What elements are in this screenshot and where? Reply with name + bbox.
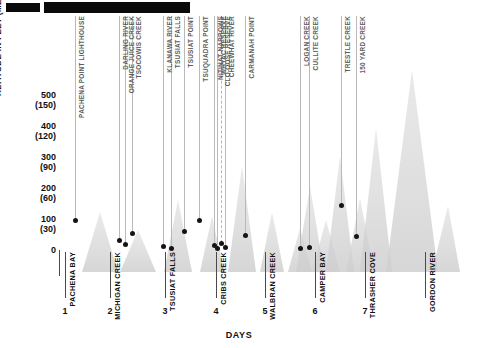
- y-tick-400: 400(120): [4, 121, 56, 141]
- redacted-title-bar-left: [6, 3, 40, 12]
- y-tick-100: 100(30): [4, 214, 56, 234]
- drop-line: [75, 16, 76, 221]
- camp-label: Cribs Creek: [219, 252, 228, 305]
- day-rule: [65, 252, 66, 298]
- top-label: Orange Juice Creek: [128, 16, 135, 93]
- data-point[interactable]: [215, 246, 220, 251]
- camp-label: Gordon River: [428, 252, 437, 312]
- top-label: Cullite Creek: [312, 16, 319, 70]
- drop-line: [214, 16, 215, 246]
- data-point[interactable]: [298, 246, 303, 251]
- day-tick-7: 7: [355, 306, 375, 316]
- y-tick-metres: (60): [4, 193, 56, 203]
- drop-line: [356, 16, 357, 237]
- day-rule: [425, 252, 426, 298]
- data-point[interactable]: [169, 246, 174, 251]
- y-tick-feet: 100: [41, 214, 56, 224]
- day-tick-4: 4: [206, 306, 226, 316]
- x-axis-label: DAYS: [0, 330, 478, 340]
- y-tick-300: 300(90): [4, 152, 56, 172]
- top-label: 150 Yard Creek: [359, 16, 366, 74]
- drop-line: [184, 16, 185, 231]
- camp-label: Pachena Bay: [68, 252, 77, 307]
- drop-line: [199, 16, 200, 221]
- y-tick-feet: 400: [41, 121, 56, 131]
- top-label: Tsusiat Falls: [174, 16, 181, 68]
- y-tick-feet: 500: [41, 90, 56, 100]
- top-label: Pachena Point Lighthouse: [78, 16, 85, 118]
- y-axis-ticks: 500(150)400(120)300(90)200(60)100(30)0: [0, 16, 56, 272]
- drop-line: [300, 16, 301, 249]
- top-label: Carmanah Point: [248, 16, 255, 78]
- data-point[interactable]: [73, 218, 78, 223]
- y-tick-200: 200(60): [4, 183, 56, 203]
- day-rule: [110, 252, 111, 298]
- data-point[interactable]: [339, 203, 344, 208]
- y-tick-metres: (150): [4, 100, 56, 110]
- day-rule: [165, 252, 166, 298]
- data-point[interactable]: [182, 229, 187, 234]
- day-rule: [315, 252, 316, 298]
- drop-line: [163, 16, 164, 246]
- drop-line: [341, 16, 342, 205]
- data-point[interactable]: [307, 245, 312, 250]
- camp-label: Tsusiat Falls: [168, 252, 177, 311]
- data-point[interactable]: [223, 245, 228, 250]
- y-tick-metres: (30): [4, 224, 56, 234]
- data-point[interactable]: [117, 238, 122, 243]
- day-tick-6: 6: [305, 306, 325, 316]
- y-tick-metres: (120): [4, 131, 56, 141]
- redacted-title-bar-right: [44, 2, 190, 13]
- day-tick-2: 2: [100, 306, 120, 316]
- y-tick-metres: (90): [4, 162, 56, 172]
- top-label: Klanawa River: [166, 16, 173, 73]
- top-label: Trestle Creek: [344, 16, 351, 73]
- data-point[interactable]: [243, 233, 248, 238]
- camp-label: Camper Bay: [318, 252, 327, 303]
- day-rule: [216, 252, 217, 298]
- drop-line: [245, 16, 246, 235]
- day-tick-1: 1: [55, 306, 75, 316]
- y-tick-500: 500(150): [4, 90, 56, 110]
- data-point[interactable]: [161, 244, 166, 249]
- top-label: Tsusiat Point: [187, 16, 194, 67]
- data-point[interactable]: [123, 242, 128, 247]
- plot-area: Pachena Point LighthouseDarling RiverOra…: [60, 16, 460, 272]
- top-label: Logan Creek: [303, 16, 310, 66]
- day-rule: [365, 252, 366, 298]
- y-tick-feet: 300: [41, 152, 56, 162]
- top-label: Tsuquadra Point: [202, 16, 209, 82]
- y-tick-0: 0: [4, 245, 56, 255]
- data-point[interactable]: [130, 231, 135, 236]
- y-tick-feet: 200: [41, 183, 56, 193]
- day-tick-5: 5: [255, 306, 275, 316]
- drop-line: [119, 16, 120, 241]
- day-rule: [265, 252, 266, 298]
- data-point[interactable]: [197, 218, 202, 223]
- altitude-profile-chart: ALTITUDE IN FEET (METRES ) 500(150)400(1…: [0, 0, 478, 348]
- y-tick-feet: 0: [51, 245, 56, 255]
- top-label: Tsocowis Creek: [135, 16, 142, 78]
- day-tick-3: 3: [155, 306, 175, 316]
- top-label: Cheewhat River: [228, 16, 235, 77]
- terrain-silhouette: [60, 16, 460, 272]
